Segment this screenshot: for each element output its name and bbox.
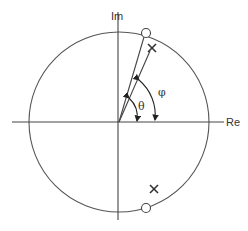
zero-marker-lower bbox=[142, 204, 151, 213]
phi-label: φ bbox=[158, 86, 166, 99]
theta-label: θ bbox=[138, 100, 145, 113]
zero-marker-upper bbox=[142, 29, 151, 38]
pole-marker-upper bbox=[148, 44, 156, 52]
diagram-svg: Im Re θ φ bbox=[0, 0, 248, 231]
real-axis-label: Re bbox=[226, 116, 240, 128]
imag-axis-label: Im bbox=[111, 10, 123, 22]
pole-marker-lower bbox=[150, 185, 158, 193]
theta-arc bbox=[129, 98, 137, 121]
pole-zero-diagram: Im Re θ φ bbox=[0, 0, 248, 231]
